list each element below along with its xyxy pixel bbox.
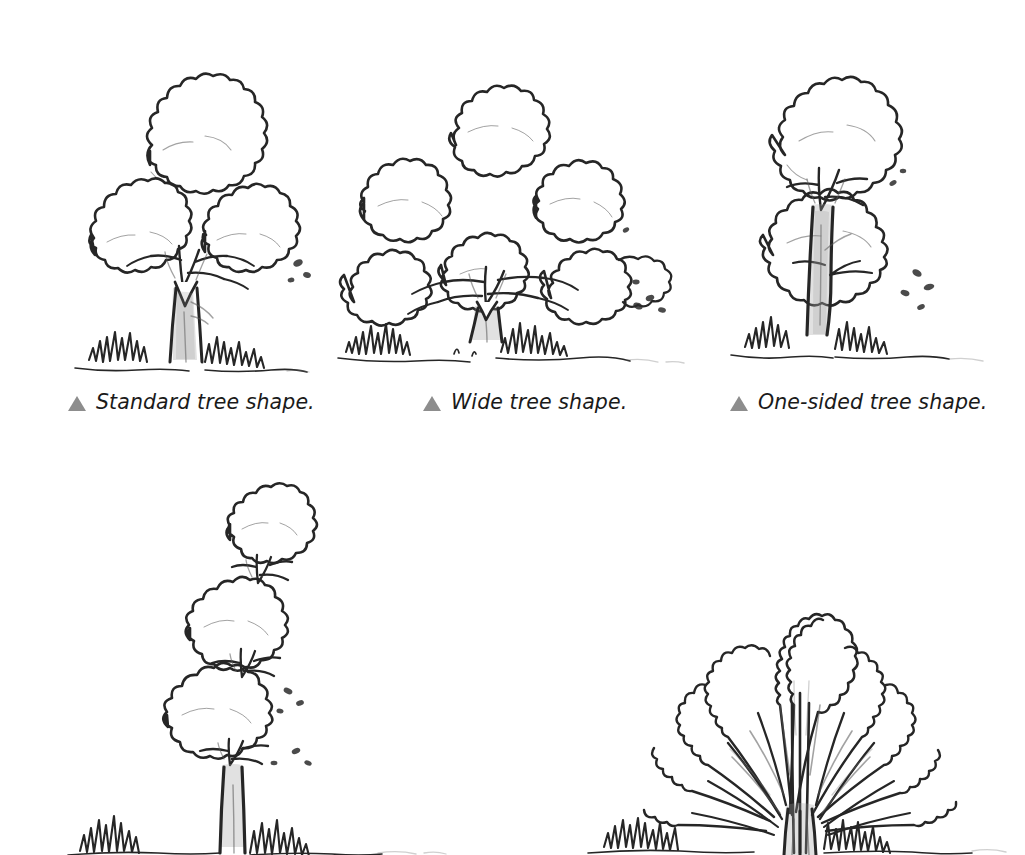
standard-tree-drawing: [55, 30, 315, 380]
trunk-group: [783, 803, 817, 855]
canopy-group: [760, 77, 935, 311]
one-sided-tree-drawing: [725, 25, 1005, 380]
one-sided-tree-svg: [725, 25, 1005, 380]
trunk-group: [470, 302, 502, 342]
trunk-group: [170, 282, 213, 362]
vase-tree-svg: [580, 475, 1020, 855]
triangle-bullet-icon: [730, 396, 748, 411]
standard-tree-svg: [55, 30, 315, 380]
canopy-group: [340, 86, 671, 326]
vase-tree-drawing: [580, 475, 1020, 855]
caption-text-wide: Wide tree shape.: [451, 392, 627, 413]
triangle-bullet-icon: [68, 396, 86, 411]
triangle-bullet-icon: [423, 396, 441, 411]
caption-text-one-sided: One-sided tree shape.: [758, 392, 987, 413]
wide-tree-drawing: [336, 70, 706, 380]
drawing-plate: Standard tree shape. Wide tree shape. On…: [0, 0, 1025, 855]
grass-group: [68, 816, 446, 855]
caption-one-sided-tree: One-sided tree shape.: [730, 392, 987, 413]
canopy-group: [89, 74, 311, 283]
caption-standard-tree: Standard tree shape.: [68, 392, 315, 413]
canopy-group: [163, 483, 317, 766]
columnar-tree-svg: [60, 455, 480, 855]
grass-group: [731, 317, 983, 361]
trunk-group: [220, 764, 245, 853]
columnar-tree-drawing: [60, 455, 480, 855]
caption-text-standard: Standard tree shape.: [96, 392, 315, 413]
caption-wide-tree: Wide tree shape.: [423, 392, 627, 413]
trunk-group: [807, 204, 851, 335]
wide-tree-svg: [336, 70, 706, 380]
grass-group: [338, 323, 684, 363]
branch-group: [200, 555, 292, 765]
